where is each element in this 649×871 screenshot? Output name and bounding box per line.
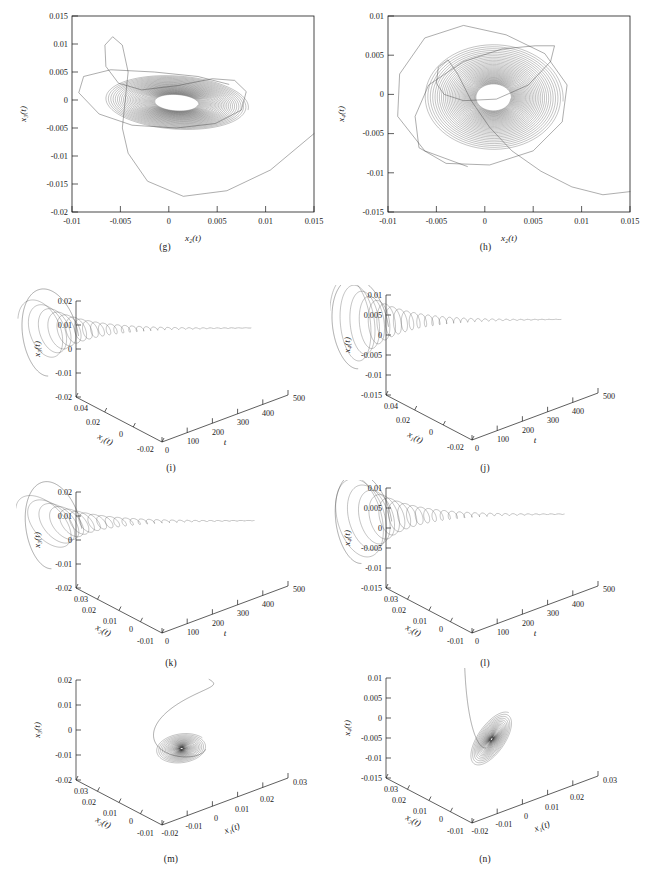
horiztick: 0	[214, 814, 218, 823]
panel-i-depthticks: 0.04 0.02 0 -0.02	[74, 393, 164, 454]
depthtick: 0.03	[384, 595, 398, 604]
ytick: -0.015	[47, 180, 68, 189]
horiztick: 0.02	[570, 793, 584, 802]
xtick: -0.01	[63, 217, 80, 226]
horiztick: -0.01	[186, 822, 203, 831]
xtick: 0.005	[524, 217, 543, 226]
horiztick: 0	[165, 637, 169, 646]
vtick: 0.02	[58, 297, 72, 306]
horiztick: 100	[187, 628, 199, 637]
depthtick: -0.01	[447, 637, 464, 646]
panel-k-horizticks: 0 100 200 300 400 500	[162, 581, 305, 646]
panel-j: 0.01 0.005 0 -0.005 -0.01 -0.015 0.04 0.…	[330, 285, 640, 470]
ytick: 0	[380, 90, 384, 99]
depthtick: 0.03	[384, 785, 398, 794]
panel-n: 0.01 0.005 0 -0.005 -0.01 -0.015 0.03 0.…	[330, 668, 640, 868]
horiztick: 0	[524, 812, 528, 821]
ytick: -0.005	[363, 129, 384, 138]
vtick: 0	[378, 714, 382, 723]
horiztick: 0.01	[235, 805, 249, 814]
xtick: 0	[483, 217, 487, 226]
horiztick: 500	[603, 392, 615, 401]
vtick: 0.01	[58, 701, 72, 710]
panel-m-plot: 0.02 0.01 0 -0.01 -0.02 0.03 0.02 0.01 0…	[16, 668, 326, 868]
panel-g-plot: 0.015 0.01 0.005 0 -0.005 -0.01 -0.015 -…	[0, 0, 330, 250]
vtick: 0.01	[368, 674, 382, 683]
horiztick: 0	[475, 444, 479, 453]
horiztick: 300	[237, 609, 249, 618]
horiztick: 0.02	[260, 795, 274, 804]
horiztick: 400	[572, 407, 584, 416]
panel-l-depthticks: 0.03 0.02 0.01 0 -0.01	[384, 584, 474, 646]
panel-m-vlabel: x₃(t)	[32, 722, 42, 739]
vtick: -0.015	[361, 584, 382, 593]
panel-l-horizlabel: t	[534, 628, 537, 638]
panel-g: 0.015 0.01 0.005 0 -0.005 -0.01 -0.015 -…	[0, 0, 330, 250]
panel-k-plot: 0.02 0.01 0 -0.01 -0.02 0.03 0.02 0.01 0…	[16, 480, 326, 665]
panel-k-caption: (k)	[16, 658, 326, 668]
xtick: 0.01	[574, 217, 589, 226]
panel-g-ylabel: x₃(t)	[18, 106, 28, 123]
panel-n-plot: 0.01 0.005 0 -0.005 -0.01 -0.015 0.03 0.…	[330, 668, 640, 868]
vtick: -0.02	[55, 776, 72, 785]
panel-i: 0.02 0.01 0 -0.01 -0.02 0.04 0.02 0 -0.0…	[16, 285, 326, 470]
horiztick: 500	[293, 394, 305, 403]
vtick: -0.01	[365, 754, 382, 763]
panel-g-yticks: 0.015 0.01 0.005 0 -0.005 -0.01 -0.015 -…	[47, 12, 78, 217]
ytick: 0.015	[49, 12, 68, 21]
panel-l-axes	[386, 488, 598, 633]
panel-j-depthticks: 0.04 0.02 0 -0.02	[384, 391, 474, 452]
xtick: 0.005	[208, 217, 227, 226]
panel-j-horizlabel: t	[534, 435, 537, 445]
panel-k-axes	[76, 492, 288, 633]
panel-k-horizlabel: t	[224, 628, 227, 638]
horiztick: 0.03	[603, 776, 617, 785]
panel-h: 0.01 0.005 0 -0.005 -0.01 -0.015 -0.01 -…	[322, 0, 649, 250]
ytick: 0.01	[369, 12, 384, 21]
ytick: -0.01	[367, 169, 384, 178]
vtick: -0.01	[365, 564, 382, 573]
ytick: 0.01	[53, 40, 68, 49]
horiztick: 300	[237, 418, 249, 427]
vtick: -0.02	[55, 584, 72, 593]
panel-i-plot: 0.02 0.01 0 -0.01 -0.02 0.04 0.02 0 -0.0…	[16, 285, 326, 470]
panel-i-axes	[76, 301, 288, 442]
panel-h-trajectory	[398, 25, 630, 194]
panel-i-caption: (i)	[16, 463, 326, 473]
depthtick: 0	[129, 625, 133, 634]
panel-n-vlabel: x₄(t)	[342, 720, 352, 737]
vtick: 0	[68, 726, 72, 735]
panel-m-trajectory	[154, 679, 214, 763]
depthtick: 0.02	[82, 606, 96, 615]
panel-l-caption: (l)	[330, 658, 640, 668]
depthtick: -0.01	[137, 829, 154, 838]
horiztick: 0	[165, 446, 169, 455]
vtick: -0.005	[361, 734, 382, 743]
horiztick: 100	[187, 437, 199, 446]
panel-i-depthlabel: x₁(t)	[95, 431, 115, 448]
horiztick: 100	[497, 628, 509, 637]
horiztick: 200	[212, 619, 224, 628]
ytick: -0.01	[51, 152, 68, 161]
vtick: 0.02	[58, 488, 72, 497]
horiztick: 0.03	[293, 778, 307, 787]
panel-l-plot: 0.01 0.005 0 -0.005 -0.01 -0.015 0.03 0.…	[330, 480, 640, 665]
panel-h-yticks: 0.01 0.005 0 -0.005 -0.01 -0.015	[363, 12, 394, 217]
panel-l: 0.01 0.005 0 -0.005 -0.01 -0.015 0.03 0.…	[330, 480, 640, 665]
horiztick: 500	[603, 585, 615, 594]
panel-j-vlabel: x₄(t)	[342, 337, 352, 354]
figure-panel-grid: 0.015 0.01 0.005 0 -0.005 -0.01 -0.015 -…	[0, 0, 649, 871]
depthtick: 0	[439, 625, 443, 634]
xtick: 0.015	[305, 217, 324, 226]
vtick: -0.005	[361, 351, 382, 360]
panel-k-trajectory	[16, 482, 254, 569]
xtick: 0.01	[258, 217, 273, 226]
vtick: -0.02	[55, 393, 72, 402]
depthtick: -0.01	[137, 637, 154, 646]
xtick: -0.005	[110, 217, 131, 226]
panel-i-vlabel: x₃(t)	[32, 341, 42, 358]
panel-m: 0.02 0.01 0 -0.01 -0.02 0.03 0.02 0.01 0…	[16, 668, 326, 868]
ytick: 0	[64, 96, 68, 105]
ytick: -0.005	[47, 124, 68, 133]
horiztick: 300	[547, 416, 559, 425]
